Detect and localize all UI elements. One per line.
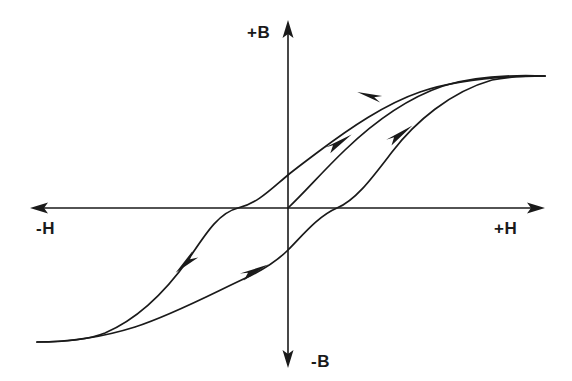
flow-arrow-descending-lower-icon [176, 251, 199, 274]
flow-arrow-descending-upper-icon [357, 88, 383, 106]
axis-label-positive-b: +B [247, 24, 270, 41]
axis-label-negative-h: -H [36, 220, 55, 237]
axis-group [30, 20, 545, 368]
descending-branch-curve [37, 76, 545, 342]
curve-group [37, 76, 545, 342]
hysteresis-diagram [0, 0, 572, 381]
flow-arrow-group [176, 88, 414, 281]
hysteresis-figure: +B -B -H +H [0, 0, 572, 381]
ascending-branch-curve [37, 76, 545, 342]
axis-label-negative-b: -B [311, 353, 330, 370]
axis-label-positive-h: +H [494, 220, 517, 237]
initial-magnetization-curve [288, 76, 545, 208]
